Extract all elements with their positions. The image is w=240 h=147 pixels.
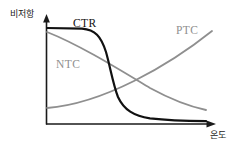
y-axis-label: 비저항	[10, 10, 33, 19]
chart-plot-area	[0, 0, 240, 147]
ctr-series-label: CTR	[73, 18, 97, 30]
ntc-curve	[47, 32, 206, 110]
ntc-series-label: NTC	[56, 59, 80, 71]
resistivity-temperature-chart: 비저항 온도 CTR NTC PTC	[0, 0, 240, 147]
x-axis-label: 온도	[210, 131, 226, 140]
arrow-right-icon	[207, 120, 217, 127]
arrow-up-icon	[43, 14, 50, 23]
ptc-series-label: PTC	[176, 25, 198, 37]
